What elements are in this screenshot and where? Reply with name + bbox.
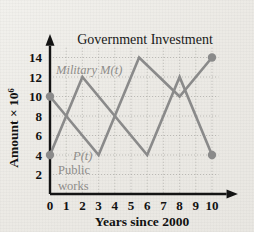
y-axis-arrowhead bbox=[46, 34, 55, 46]
x-tick-label: 7 bbox=[160, 198, 167, 213]
data-point-marker bbox=[46, 92, 54, 100]
x-tick-label: 8 bbox=[176, 198, 183, 213]
chart-canvas: 2468101214012345678910 bbox=[0, 0, 254, 232]
data-point-marker bbox=[46, 151, 54, 159]
chart-figure: 2468101214012345678910 Government Invest… bbox=[0, 0, 254, 232]
x-tick-label: 10 bbox=[206, 198, 219, 213]
y-tick-label: 4 bbox=[36, 148, 43, 163]
y-tick-label: 10 bbox=[29, 89, 42, 104]
x-tick-label: 4 bbox=[112, 198, 119, 213]
data-point-marker bbox=[208, 53, 216, 61]
axis-tick-labels: 2468101214012345678910 bbox=[29, 50, 219, 213]
x-tick-label: 0 bbox=[47, 198, 54, 213]
x-tick-label: 3 bbox=[95, 198, 102, 213]
y-tick-label: 14 bbox=[29, 50, 43, 65]
y-tick-label: 12 bbox=[29, 70, 42, 85]
y-tick-label: 8 bbox=[36, 109, 43, 124]
y-tick-label: 6 bbox=[36, 128, 43, 143]
y-tick-label: 2 bbox=[36, 167, 43, 182]
x-tick-label: 9 bbox=[193, 198, 200, 213]
x-axis-arrowhead bbox=[227, 190, 238, 199]
x-tick-label: 6 bbox=[144, 198, 151, 213]
x-tick-label: 1 bbox=[63, 198, 70, 213]
x-tick-label: 5 bbox=[128, 198, 135, 213]
x-tick-label: 2 bbox=[79, 198, 86, 213]
data-point-marker bbox=[208, 151, 216, 159]
